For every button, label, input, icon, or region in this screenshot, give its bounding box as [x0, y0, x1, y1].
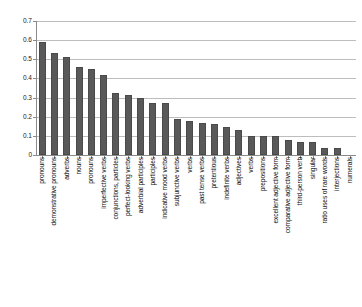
x-axis-label-slot: adverbial participles	[134, 156, 146, 306]
bar	[186, 121, 193, 155]
y-axis-tick-label: 0.5	[23, 56, 32, 63]
x-axis-label-slot: pretentious	[208, 156, 220, 306]
bar-slot	[233, 21, 245, 155]
bar-slot	[196, 21, 208, 155]
x-axis-tick-label: imperfective verbs	[100, 157, 107, 209]
x-axis-tick-label: pretentious	[211, 157, 218, 189]
x-axis-tick-label: pronouns	[88, 157, 95, 184]
x-axis-label-slot: third-person verb	[294, 156, 306, 306]
bar	[321, 148, 328, 155]
x-axis-tick-label: demonstrative pronouns	[51, 157, 58, 226]
x-axis-label-slot: perfect-looking verbs	[122, 156, 134, 306]
bar	[125, 95, 132, 155]
x-axis-tick-label: pronouns	[39, 157, 46, 184]
bar	[248, 136, 255, 155]
bar	[112, 93, 119, 155]
y-axis-tick-label: 0.3	[23, 94, 32, 101]
y-axis-tick-label: 0.2	[23, 113, 32, 120]
x-axis-label-slot: past tense verbs	[196, 156, 208, 306]
bar-slot	[61, 21, 73, 155]
x-axis-label-slot: adverbs	[61, 156, 73, 306]
x-axis-tick-label: verbs	[186, 157, 193, 173]
x-axis-label-slot: pronouns	[85, 156, 97, 306]
x-axis-tick-label: nouns	[76, 157, 83, 174]
x-axis-tick-label: subjunctive verbs	[174, 157, 181, 206]
bar	[272, 136, 279, 155]
x-axis-tick-label: perfect-looking verbs	[125, 157, 132, 216]
x-axis-label-slot: conjunctions, particles	[110, 156, 122, 306]
x-axis-tick-label: adverbial participles	[137, 157, 144, 213]
x-axis-label-slot: pronouns	[36, 156, 48, 306]
bar-series	[36, 21, 356, 155]
bar-slot	[36, 21, 48, 155]
bar	[334, 148, 341, 155]
x-axis-tick-label: indicative mood verbs	[162, 157, 169, 219]
x-axis-tick-label: indefinite verbs	[223, 157, 230, 200]
bar	[100, 75, 107, 155]
x-axis-label-slot: imperfective verbs	[97, 156, 109, 306]
x-axis-tick-label: adjectives	[236, 157, 243, 185]
x-axis-tick-label: comparative adjective form	[285, 157, 292, 233]
bar	[285, 140, 292, 155]
bar-slot	[159, 21, 171, 155]
x-axis-label-slot: comparative adjective form	[282, 156, 294, 306]
x-axis-tick-label: past tense verbs	[199, 157, 206, 204]
bar-slot	[307, 21, 319, 155]
bar-slot	[122, 21, 134, 155]
x-axis-label-slot: ratio uses of rare words	[319, 156, 331, 306]
y-axis-tick-label: 0	[28, 152, 32, 159]
bar	[309, 142, 316, 155]
bar-slot	[245, 21, 257, 155]
x-axis-label-slot: verbs	[245, 156, 257, 306]
x-axis-label-slot: interjections	[331, 156, 343, 306]
bar	[39, 42, 46, 155]
bar-slot	[294, 21, 306, 155]
x-axis-label-slot: verbs	[184, 156, 196, 306]
x-axis-label-slot: nouns	[73, 156, 85, 306]
x-axis-label-slot: participles	[147, 156, 159, 306]
bar	[162, 103, 169, 155]
bar-slot	[147, 21, 159, 155]
x-axis-tick-label: prepositions	[260, 157, 267, 191]
x-axis-tick-label: third-person verb	[297, 157, 304, 205]
x-axis-tick-label: conjunctions, particles	[113, 157, 120, 220]
y-axis-tick-label: 0.7	[23, 18, 32, 25]
bar	[137, 98, 144, 155]
bar	[223, 127, 230, 155]
bar	[174, 119, 181, 155]
x-axis-label-slot: singular	[307, 156, 319, 306]
x-axis-tick-label: singular	[309, 157, 316, 179]
x-axis-tick-label: adverbs	[63, 157, 70, 180]
x-axis-tick-label: interjections	[334, 157, 341, 191]
x-axis-label-slot: excellent adjective form	[270, 156, 282, 306]
bar-slot	[97, 21, 109, 155]
x-axis-label-slot: numerals	[343, 156, 355, 306]
x-axis-tick-label: numerals	[346, 157, 353, 183]
x-axis-tick-label: participles	[150, 157, 157, 186]
bar	[63, 57, 70, 155]
bar-slot	[220, 21, 232, 155]
x-axis-label-slot: indicative mood verbs	[159, 156, 171, 306]
bar	[260, 136, 267, 155]
bar-slot	[171, 21, 183, 155]
x-axis-tick-label: verbs	[248, 157, 255, 173]
bar	[199, 123, 206, 155]
bar	[88, 69, 95, 155]
bar-slot	[270, 21, 282, 155]
bar	[149, 103, 156, 155]
bar-chart: 00.10.20.30.40.50.60.7 pronounsdemonstra…	[0, 0, 362, 307]
y-axis-tick-label: 0.4	[23, 75, 32, 82]
bar-slot	[282, 21, 294, 155]
y-axis-tick-label: 0.6	[23, 37, 32, 44]
x-axis-labels: pronounsdemonstrative pronounsadverbsnou…	[36, 156, 356, 306]
bar-slot	[319, 21, 331, 155]
bar-slot	[73, 21, 85, 155]
x-axis-label-slot: prepositions	[257, 156, 269, 306]
x-axis-tick-label: ratio uses of rare words	[322, 157, 329, 224]
x-axis-label-slot: adjectives	[233, 156, 245, 306]
bar-slot	[48, 21, 60, 155]
bar-slot	[257, 21, 269, 155]
bar-slot	[85, 21, 97, 155]
bar-slot	[331, 21, 343, 155]
bar-slot	[343, 21, 355, 155]
